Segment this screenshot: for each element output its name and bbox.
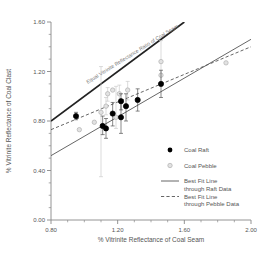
data-point-coal-pebble[interactable]: [99, 110, 103, 114]
data-point-coal-raft[interactable]: [118, 115, 123, 120]
data-point-coal-raft[interactable]: [103, 126, 108, 131]
x-tick-label: 2.00: [245, 227, 257, 233]
legend-label-line2: through Raft Data: [184, 186, 232, 192]
plot-area: Equal Vitrinite Reflectance Ratio of Coa…: [51, 22, 251, 177]
scatter-plot-svg: 0.000.400.801.201.600.801.201.602.00% Vi…: [0, 0, 261, 259]
legend-item-1[interactable]: Coal Pebble: [168, 163, 218, 169]
legend-label-line1: Best Fit Line: [184, 194, 218, 200]
data-point-coal-pebble[interactable]: [105, 92, 109, 96]
legend-label-line1: Coal Pebble: [184, 163, 217, 169]
data-point-coal-raft[interactable]: [118, 99, 123, 104]
y-tick-label: 1.60: [33, 19, 45, 25]
x-tick-label: 1.60: [178, 227, 190, 233]
legend-item-3[interactable]: Best Fit Linethrough Pebble Data: [161, 194, 240, 208]
data-point-coal-pebble[interactable]: [224, 61, 228, 65]
legend-item-2[interactable]: Best Fit Linethrough Raft Data: [161, 178, 232, 192]
data-point-coal-pebble[interactable]: [77, 127, 81, 131]
legend-label-line1: Coal Raft: [184, 147, 209, 153]
x-axis-title: % Vitrinite Reflectance of Coal Seam: [98, 236, 204, 243]
y-tick-label: 1.20: [33, 69, 45, 75]
legend-label-line2: through Pebble Data: [184, 201, 240, 207]
y-axis-title: % Vitrinite Reflectance of Coal Clast: [5, 69, 12, 173]
y-tick-label: 0.00: [33, 217, 45, 223]
data-point-coal-pebble[interactable]: [104, 104, 108, 108]
best-fit-pebble: [51, 47, 251, 130]
legend-label-line1: Best Fit Line: [184, 178, 218, 184]
chart-figure: 0.000.400.801.201.600.801.201.602.00% Vi…: [0, 0, 261, 259]
data-point-coal-raft[interactable]: [110, 111, 115, 116]
data-point-coal-pebble[interactable]: [125, 88, 129, 92]
data-point-coal-raft[interactable]: [158, 81, 163, 86]
legend-marker-raft: [168, 148, 173, 153]
data-point-coal-pebble[interactable]: [110, 88, 114, 92]
x-tick-label: 0.80: [45, 227, 57, 233]
x-tick-label: 1.20: [112, 227, 124, 233]
equal-reflectance-line-label: Equal Vitrinite Reflectance Ratio of Coa…: [85, 23, 179, 85]
data-point-coal-raft[interactable]: [123, 104, 128, 109]
data-point-coal-pebble[interactable]: [159, 59, 163, 63]
data-point-coal-pebble[interactable]: [92, 120, 96, 124]
y-tick-label: 0.80: [33, 118, 45, 124]
legend-marker-pebble: [168, 163, 172, 167]
legend-item-0[interactable]: Coal Raft: [168, 147, 210, 153]
y-tick-label: 0.40: [33, 168, 45, 174]
data-point-coal-raft[interactable]: [73, 113, 78, 118]
best-fit-raft: [51, 39, 251, 155]
data-point-coal-raft[interactable]: [135, 97, 140, 102]
